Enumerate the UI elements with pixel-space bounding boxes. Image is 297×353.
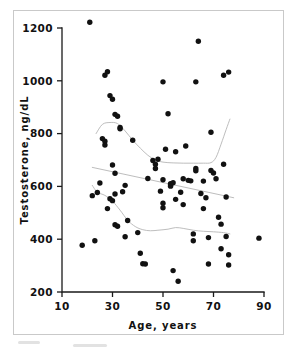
data-point <box>112 191 117 196</box>
x-tick-label-10: 10 <box>54 300 69 312</box>
data-point <box>216 215 221 220</box>
data-point <box>170 268 175 273</box>
data-point <box>92 238 97 243</box>
y-tick-label-200: 200 <box>30 286 53 298</box>
data-point <box>112 171 117 176</box>
data-point <box>208 130 213 135</box>
data-point <box>181 202 186 207</box>
data-point <box>163 146 168 151</box>
scatter-plot-canvas: 200400600800100012001030507090Age, years… <box>0 0 297 353</box>
data-point <box>90 193 95 198</box>
data-point <box>143 261 148 266</box>
data-point <box>206 261 211 266</box>
data-point <box>198 191 203 196</box>
data-point <box>223 234 228 239</box>
data-point <box>218 246 223 251</box>
data-point <box>221 73 226 78</box>
axes-group <box>57 28 264 297</box>
y-axis-title: Testosterone, ng/dL <box>19 96 30 225</box>
data-point <box>178 190 183 195</box>
data-point <box>110 162 115 167</box>
data-point <box>191 231 196 236</box>
data-point <box>218 221 223 226</box>
data-point <box>211 170 216 175</box>
data-point <box>120 189 125 194</box>
data-point <box>173 149 178 154</box>
data-point <box>188 178 193 183</box>
data-point <box>181 176 186 181</box>
data-point <box>256 235 261 240</box>
x-tick-label-70: 70 <box>206 300 221 312</box>
trend-line-upper-percentile <box>96 119 230 163</box>
axis-labels-group: 200400600800100012001030507090Age, years… <box>18 22 272 347</box>
data-point <box>221 162 226 167</box>
data-point <box>223 194 228 199</box>
data-point <box>130 138 135 143</box>
data-point <box>138 250 143 255</box>
data-point <box>170 180 175 185</box>
y-tick-label-600: 600 <box>30 180 53 192</box>
data-point <box>226 69 231 74</box>
data-point <box>160 79 165 84</box>
data-point <box>135 230 140 235</box>
y-tick-label-400: 400 <box>30 233 53 245</box>
data-point <box>102 142 107 147</box>
data-point <box>110 97 115 102</box>
data-point <box>206 235 211 240</box>
data-point <box>175 278 180 283</box>
data-point <box>191 238 196 243</box>
data-point <box>105 206 110 211</box>
data-point <box>145 176 150 181</box>
data-point <box>226 252 231 257</box>
data-point <box>80 243 85 248</box>
data-point <box>165 111 170 116</box>
data-point <box>105 69 110 74</box>
data-point <box>203 195 208 200</box>
x-axis-title: Age, years <box>129 320 198 331</box>
data-point <box>201 178 206 183</box>
data-point <box>153 166 158 171</box>
y-tick-label-1000: 1000 <box>22 75 53 87</box>
data-point <box>201 206 206 211</box>
data-point <box>110 198 115 203</box>
data-point <box>122 183 127 188</box>
data-point <box>193 79 198 84</box>
y-tick-label-800: 800 <box>30 127 53 139</box>
data-point <box>158 188 163 193</box>
data-point <box>160 177 165 182</box>
data-point <box>95 190 100 195</box>
x-tick-label-90: 90 <box>256 300 271 312</box>
data-point <box>125 218 130 223</box>
data-point <box>193 168 198 173</box>
x-tick-label-50: 50 <box>155 300 170 312</box>
data-point <box>87 19 92 24</box>
data-points-group <box>80 19 262 283</box>
axis-spines <box>62 28 264 292</box>
data-point <box>97 180 102 185</box>
testosterone-age-scatter-figure: 200400600800100012001030507090Age, years… <box>0 0 297 353</box>
data-point <box>196 39 201 44</box>
x-tick-label-30: 30 <box>105 300 120 312</box>
data-point <box>160 201 165 206</box>
data-point <box>226 262 231 267</box>
data-point <box>213 176 218 181</box>
data-point <box>115 224 120 229</box>
data-point <box>117 126 122 131</box>
scan-artifact <box>18 341 40 344</box>
data-point <box>183 143 188 148</box>
y-tick-label-1200: 1200 <box>22 22 53 34</box>
data-point <box>115 113 120 118</box>
data-point <box>155 157 160 162</box>
trend-lines-group <box>92 119 233 234</box>
scan-artifact <box>73 344 107 347</box>
data-point <box>122 234 127 239</box>
data-point <box>173 197 178 202</box>
